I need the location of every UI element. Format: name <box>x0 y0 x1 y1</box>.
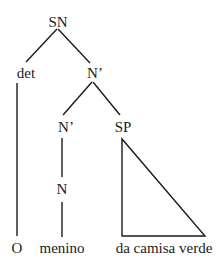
edge-sn-nbar <box>58 29 90 63</box>
syntax-tree: SN det N’ N’ SP N O menino da camisa ver… <box>0 0 221 269</box>
node-nbar-lower: N’ <box>58 119 74 135</box>
leaf-o: O <box>12 240 23 256</box>
leaf-da-camisa-verde: da camisa verde <box>116 240 213 256</box>
node-n: N <box>57 181 68 197</box>
edge-sn-det <box>26 29 57 62</box>
node-det: det <box>17 65 36 81</box>
sp-triangle <box>122 139 205 236</box>
node-sp: SP <box>115 119 132 135</box>
edge-nbar-nbar <box>63 82 92 115</box>
edge-nbar-sp <box>93 82 120 115</box>
node-sn: SN <box>48 14 67 30</box>
node-nbar-upper: N’ <box>87 65 103 81</box>
leaf-menino: menino <box>40 240 85 256</box>
